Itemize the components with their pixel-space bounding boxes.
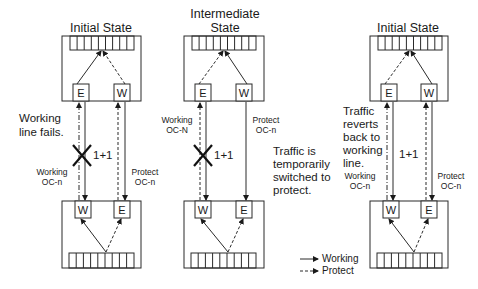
top-queue xyxy=(192,36,256,50)
panel-title: Initial State xyxy=(70,21,132,35)
protection-switching-diagram: Initial State E W 1+1 Working line fails… xyxy=(0,0,478,289)
working-line-label: Working xyxy=(344,171,375,181)
annotation-line: line fails. xyxy=(19,126,64,138)
panel-title: State xyxy=(210,21,239,35)
protect-line-label: Protect xyxy=(253,115,281,125)
port-label: E xyxy=(240,204,247,216)
panel-title: Intermediate xyxy=(190,7,260,21)
bottom-queue xyxy=(377,253,442,268)
annotation-line: Working xyxy=(19,112,61,124)
working-line-label: OC-N xyxy=(166,125,188,135)
scheme-label: 1+1 xyxy=(93,149,113,161)
port-label: E xyxy=(118,204,125,216)
legend: Working Protect xyxy=(300,253,359,276)
port-label: E xyxy=(199,87,206,99)
port-label: E xyxy=(385,87,392,99)
annotation-line: switched to xyxy=(273,171,331,183)
port-label: W xyxy=(78,204,89,216)
scheme-label: 1+1 xyxy=(399,148,419,160)
protect-line-label: OC-n xyxy=(441,181,462,191)
annotation-line: line. xyxy=(343,157,364,169)
annotation-line: reverts xyxy=(343,118,378,130)
protect-line-label: Protect xyxy=(132,167,160,177)
line-failure-x-icon xyxy=(194,145,212,166)
protect-line-label: Protect xyxy=(438,171,466,181)
protect-line-label: OC-n xyxy=(135,177,156,187)
port-label: E xyxy=(77,87,84,99)
line-failure-x-icon xyxy=(73,145,91,166)
bottom-queue xyxy=(191,253,256,268)
annotation-line: back to xyxy=(343,131,380,143)
scheme-label: 1+1 xyxy=(214,149,234,161)
port-label: W xyxy=(386,204,397,216)
annotation-line: Traffic is xyxy=(273,145,316,157)
port-label: E xyxy=(425,204,432,216)
legend-working-label: Working xyxy=(322,253,359,264)
port-label: W xyxy=(239,87,250,99)
working-line-label: Working xyxy=(161,115,192,125)
port-label: W xyxy=(117,87,128,99)
legend-protect-label: Protect xyxy=(322,265,354,276)
panel-reverted-state: Initial State E W 1+1 Traffic reverts ba… xyxy=(342,21,465,268)
working-line-label: OC-n xyxy=(350,181,371,191)
top-queue xyxy=(378,36,442,50)
working-line-label: Working xyxy=(36,167,67,177)
port-label: W xyxy=(198,204,209,216)
top-queue xyxy=(70,36,134,50)
annotation-line: protect. xyxy=(273,184,311,196)
port-label: W xyxy=(424,87,435,99)
panel-initial-state: Initial State E W 1+1 Working line fails… xyxy=(19,21,159,268)
annotation-line: working xyxy=(342,144,383,156)
bottom-queue xyxy=(69,253,134,268)
annotation-line: Traffic xyxy=(343,105,375,117)
protect-line-label: OC-n xyxy=(256,125,277,135)
annotation-line: temporarily xyxy=(273,158,330,170)
panel-title: Initial State xyxy=(377,21,439,35)
working-line-label: OC-n xyxy=(42,177,63,187)
panel-intermediate-state: Intermediate State E W 1+1 Working OC-N … xyxy=(161,7,330,268)
